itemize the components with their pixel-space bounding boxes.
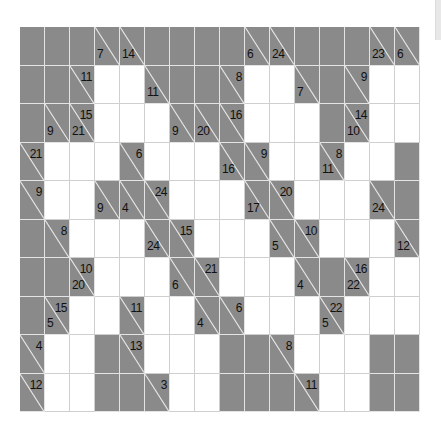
entry-cell[interactable] [270, 143, 295, 182]
entry-cell[interactable] [270, 66, 295, 105]
entry-cell[interactable] [395, 297, 420, 336]
clue-cell: 11 [295, 374, 320, 413]
entry-cell[interactable] [320, 181, 345, 220]
clue-cell: 4 [20, 335, 45, 374]
block-cell [45, 66, 70, 105]
block-cell [395, 335, 420, 374]
entry-cell[interactable] [95, 258, 120, 297]
entry-cell[interactable] [395, 258, 420, 297]
clue-cell: 811 [320, 143, 345, 182]
entry-cell[interactable] [320, 335, 345, 374]
down-sum: 7 [97, 48, 103, 60]
entry-cell[interactable] [195, 181, 220, 220]
entry-cell[interactable] [345, 220, 370, 259]
clue-cell: 11 [70, 66, 95, 105]
entry-cell[interactable] [170, 143, 195, 182]
entry-cell[interactable] [245, 220, 270, 259]
entry-cell[interactable] [120, 66, 145, 105]
entry-cell[interactable] [195, 335, 220, 374]
entry-cell[interactable] [245, 258, 270, 297]
entry-cell[interactable] [345, 374, 370, 413]
clue-cell: 6 [220, 297, 245, 336]
entry-cell[interactable] [170, 335, 195, 374]
entry-cell[interactable] [195, 220, 220, 259]
entry-cell[interactable] [70, 220, 95, 259]
clue-cell: 24 [270, 27, 295, 66]
entry-cell[interactable] [370, 220, 395, 259]
entry-cell[interactable] [320, 220, 345, 259]
entry-cell[interactable] [370, 297, 395, 336]
across-sum: 9 [36, 186, 42, 198]
clue-cell: 8 [220, 66, 245, 105]
clue-cell: 1521 [70, 104, 95, 143]
entry-cell[interactable] [295, 181, 320, 220]
entry-cell[interactable] [245, 297, 270, 336]
scrollbar[interactable] [435, 0, 441, 40]
entry-cell[interactable] [345, 297, 370, 336]
entry-cell[interactable] [270, 104, 295, 143]
entry-cell[interactable] [145, 258, 170, 297]
entry-cell[interactable] [70, 181, 95, 220]
entry-cell[interactable] [270, 297, 295, 336]
block-cell [320, 258, 345, 297]
entry-cell[interactable] [45, 374, 70, 413]
clue-cell: 24 [370, 181, 395, 220]
clue-cell: 23 [370, 27, 395, 66]
entry-cell[interactable] [295, 143, 320, 182]
entry-cell[interactable] [70, 297, 95, 336]
entry-cell[interactable] [170, 297, 195, 336]
clue-cell: 16 [220, 143, 245, 182]
entry-cell[interactable] [95, 297, 120, 336]
entry-cell[interactable] [345, 143, 370, 182]
entry-cell[interactable] [145, 143, 170, 182]
entry-cell[interactable] [145, 297, 170, 336]
entry-cell[interactable] [220, 181, 245, 220]
entry-cell[interactable] [45, 181, 70, 220]
entry-cell[interactable] [370, 66, 395, 105]
entry-cell[interactable] [345, 335, 370, 374]
block-cell [395, 374, 420, 413]
entry-cell[interactable] [195, 143, 220, 182]
entry-cell[interactable] [170, 374, 195, 413]
entry-cell[interactable] [245, 66, 270, 105]
entry-cell[interactable] [45, 143, 70, 182]
entry-cell[interactable] [170, 181, 195, 220]
clue-cell: 9 [345, 66, 370, 105]
entry-cell[interactable] [270, 258, 295, 297]
across-sum: 14 [355, 109, 367, 121]
entry-cell[interactable] [345, 181, 370, 220]
entry-cell[interactable] [95, 143, 120, 182]
block-cell [220, 335, 245, 374]
entry-cell[interactable] [145, 335, 170, 374]
entry-cell[interactable] [220, 258, 245, 297]
entry-cell[interactable] [370, 258, 395, 297]
across-sum: 21 [30, 148, 42, 160]
entry-cell[interactable] [395, 104, 420, 143]
clue-cell: 21 [20, 143, 45, 182]
entry-cell[interactable] [70, 143, 95, 182]
entry-cell[interactable] [395, 66, 420, 105]
entry-cell[interactable] [145, 104, 170, 143]
entry-cell[interactable] [220, 220, 245, 259]
block-cell [45, 27, 70, 66]
entry-cell[interactable] [295, 335, 320, 374]
entry-cell[interactable] [295, 297, 320, 336]
entry-cell[interactable] [295, 104, 320, 143]
entry-cell[interactable] [245, 104, 270, 143]
entry-cell[interactable] [70, 335, 95, 374]
entry-cell[interactable] [320, 374, 345, 413]
entry-cell[interactable] [95, 104, 120, 143]
block-cell [370, 374, 395, 413]
entry-cell[interactable] [45, 335, 70, 374]
entry-cell[interactable] [95, 220, 120, 259]
entry-cell[interactable] [370, 104, 395, 143]
entry-cell[interactable] [70, 374, 95, 413]
entry-cell[interactable] [195, 374, 220, 413]
entry-cell[interactable] [370, 143, 395, 182]
entry-cell[interactable] [120, 220, 145, 259]
down-sum: 10 [347, 125, 359, 137]
entry-cell[interactable] [120, 258, 145, 297]
entry-cell[interactable] [95, 66, 120, 105]
entry-cell[interactable] [120, 104, 145, 143]
down-sum: 17 [247, 202, 259, 214]
